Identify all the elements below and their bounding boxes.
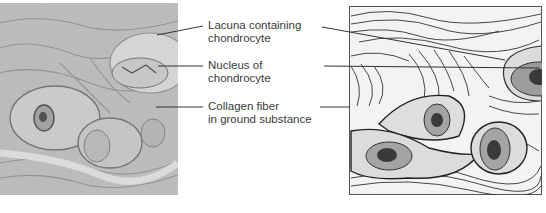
label-nucleus: Nucleus of chondrocyte: [208, 59, 271, 85]
leader-nucleus-right: [324, 66, 540, 68]
label-nucleus-line1: Nucleus of: [208, 59, 271, 72]
leader-lacuna-left: [157, 26, 203, 35]
label-nucleus-line2: chondrocyte: [208, 72, 271, 85]
label-lacuna-line1: Lacuna containing: [208, 19, 301, 32]
label-collagen-line2: in ground substance: [208, 113, 312, 126]
label-lacuna-line2: chondrocyte: [208, 32, 301, 45]
label-collagen: Collagen fiber in ground substance: [208, 100, 312, 126]
label-lacuna: Lacuna containing chondrocyte: [208, 19, 301, 45]
leader-lacuna-right: [322, 27, 505, 60]
label-collagen-line1: Collagen fiber: [208, 100, 312, 113]
